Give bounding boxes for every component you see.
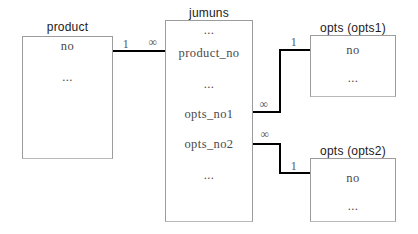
connector-jumuns-opts2-segment-h1 [253, 143, 281, 145]
connector-jumuns-opts1-segment-h1 [253, 111, 281, 113]
field-jumuns-more-top: ... [166, 23, 252, 37]
field-jumuns-more-bottom: ... [166, 168, 252, 182]
cardinality-product-one: 1 [120, 37, 132, 51]
field-opts2-no: no [311, 171, 395, 185]
field-jumuns-opts-no1: opts_no1 [166, 107, 252, 121]
field-opts2-more: ... [311, 199, 395, 213]
entity-title-opts1: opts (opts1) [310, 21, 396, 35]
connector-jumuns-opts1-segment-h2 [279, 49, 310, 51]
entity-title-product: product [22, 20, 113, 34]
entity-title-jumuns: jumuns [165, 6, 253, 20]
er-diagram: product no ... jumuns ... product_no ...… [0, 0, 418, 234]
cardinality-opts2-one: 1 [288, 159, 300, 173]
entity-title-opts2: opts (opts2) [310, 144, 396, 158]
cardinality-jumuns-many: ∞ [145, 35, 161, 49]
field-jumuns-more-mid: ... [166, 77, 252, 91]
entity-box-opts2: no ... [310, 158, 396, 222]
cardinality-opts1-one: 1 [288, 35, 300, 49]
entity-box-product: no ... [22, 36, 113, 159]
cardinality-jumuns-opts1-many: ∞ [256, 97, 272, 111]
connector-jumuns-opts2-segment-v [279, 143, 281, 174]
field-product-no: no [23, 39, 112, 53]
connector-jumuns-opts1-segment-v [279, 49, 281, 113]
field-opts1-no: no [311, 43, 395, 57]
field-opts1-more: ... [311, 71, 395, 85]
cardinality-jumuns-opts2-many: ∞ [257, 127, 273, 141]
field-jumuns-opts-no2: opts_no2 [166, 137, 252, 151]
field-product-more: ... [23, 70, 112, 84]
entity-box-opts1: no ... [310, 35, 396, 97]
field-jumuns-product-no: product_no [166, 46, 252, 60]
entity-box-jumuns: ... product_no ... opts_no1 opts_no2 ... [165, 20, 253, 222]
